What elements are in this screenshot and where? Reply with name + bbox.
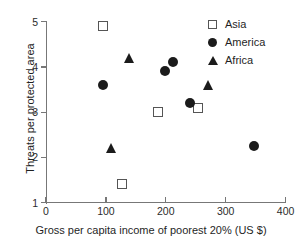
scatter-chart: 123450100200300400 Threats per protected…	[0, 0, 302, 247]
legend-item-label: Africa	[225, 55, 253, 66]
y-tick	[41, 66, 46, 67]
legend-item-africa[interactable]: Africa	[208, 52, 298, 70]
x-tick	[165, 197, 166, 202]
y-axis-line	[46, 21, 47, 204]
x-tick	[285, 197, 286, 202]
x-tick	[105, 197, 106, 202]
x-tick-label: 100	[86, 206, 126, 217]
x-tick-label: 0	[26, 206, 66, 217]
legend-item-label: America	[225, 37, 265, 48]
y-tick	[41, 112, 46, 113]
data-point-africa	[106, 143, 116, 153]
data-point-asia	[153, 107, 163, 117]
data-point-asia	[117, 179, 127, 189]
legend-item-america[interactable]: America	[208, 34, 298, 52]
x-tick	[45, 197, 46, 202]
data-point-america	[168, 57, 178, 67]
legend-item-label: Asia	[225, 19, 246, 30]
y-axis-title: Threats per protected area	[25, 19, 36, 199]
filled-triangle-icon	[208, 56, 218, 65]
data-point-africa	[203, 80, 213, 90]
data-point-america	[160, 66, 170, 76]
y-tick	[41, 21, 46, 22]
filled-circle-icon	[208, 38, 217, 47]
y-tick	[41, 157, 46, 158]
open-square-icon	[208, 20, 217, 29]
data-point-asia	[98, 21, 108, 31]
data-point-america	[98, 80, 108, 90]
x-tick-label: 400	[266, 206, 302, 217]
x-tick	[225, 197, 226, 202]
data-point-america	[249, 141, 259, 151]
legend: AsiaAmericaAfrica	[208, 16, 298, 70]
y-tick	[41, 202, 46, 203]
legend-item-asia[interactable]: Asia	[208, 16, 298, 34]
x-axis-line	[46, 202, 286, 203]
x-tick-label: 300	[206, 206, 246, 217]
data-point-africa	[124, 53, 134, 63]
x-axis-title: Gross per capita income of poorest 20% (…	[0, 225, 302, 236]
x-tick-label: 200	[146, 206, 186, 217]
